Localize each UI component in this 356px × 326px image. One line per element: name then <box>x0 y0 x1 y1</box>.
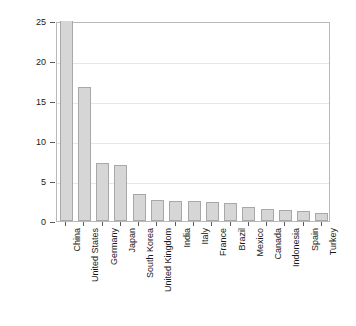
x-axis-category-label: China <box>70 228 84 320</box>
bar <box>188 201 201 221</box>
bar <box>279 210 292 221</box>
x-axis-category-label: Indonesia <box>289 228 303 320</box>
bar <box>60 21 73 221</box>
x-axis-category-label: Brazil <box>235 228 249 320</box>
x-axis-tick-mark <box>102 222 103 226</box>
x-axis-tick-mark <box>156 222 157 226</box>
bar <box>242 207 255 221</box>
gridline <box>57 143 329 144</box>
bar <box>169 201 182 221</box>
x-axis-tick-mark <box>321 222 322 226</box>
gridline <box>57 63 329 64</box>
x-axis-tick-mark <box>248 222 249 226</box>
x-axis-category-label: France <box>216 228 230 320</box>
bar <box>224 203 237 221</box>
x-axis-category-label: Italy <box>198 228 212 320</box>
bar-chart-figure: Percentage of world total 0510152025 Chi… <box>0 0 356 326</box>
bar <box>315 213 328 221</box>
bar <box>206 202 219 221</box>
bar <box>151 200 164 221</box>
x-axis-category-label: India <box>180 228 194 320</box>
y-axis-tick-label: 10 <box>6 138 46 147</box>
y-axis-tick-mark <box>50 222 55 223</box>
x-axis-category-label: Spain <box>308 228 322 320</box>
y-axis-tick-label: 25 <box>6 18 46 27</box>
x-axis-tick-mark <box>211 222 212 226</box>
y-axis-tick-label: 20 <box>6 58 46 67</box>
y-axis-tick-mark <box>50 22 55 23</box>
x-axis-tick-mark <box>175 222 176 226</box>
x-axis-category-label: Turkey <box>326 228 340 320</box>
y-axis-tick-label: 0 <box>6 218 46 227</box>
y-axis-tick-label: 15 <box>6 98 46 107</box>
y-axis-tick-mark <box>50 142 55 143</box>
x-axis-category-label: United Kingdom <box>161 228 175 320</box>
x-axis-category-label: Germany <box>107 228 121 320</box>
plot-area <box>56 22 330 222</box>
x-axis-tick-mark <box>230 222 231 226</box>
x-axis-tick-mark <box>83 222 84 226</box>
y-axis-tick-mark <box>50 62 55 63</box>
x-axis-tick-mark <box>266 222 267 226</box>
x-axis-tick-mark <box>120 222 121 226</box>
x-axis-tick-mark <box>284 222 285 226</box>
bar <box>261 209 274 221</box>
bar <box>133 194 146 221</box>
y-axis-tick-mark <box>50 102 55 103</box>
gridline <box>57 103 329 104</box>
x-axis-category-label: Mexico <box>253 228 267 320</box>
y-axis-tick-mark <box>50 182 55 183</box>
bar <box>78 87 91 221</box>
x-axis-tick-mark <box>303 222 304 226</box>
x-axis-tick-mark <box>193 222 194 226</box>
x-axis-category-label: South Korea <box>143 228 157 320</box>
bar <box>297 211 310 221</box>
x-axis-category-label: Canada <box>271 228 285 320</box>
bar <box>96 163 109 221</box>
x-axis-tick-mark <box>138 222 139 226</box>
x-axis-category-label: Japan <box>125 228 139 320</box>
x-axis-tick-mark <box>65 222 66 226</box>
bar <box>114 165 127 221</box>
x-axis-category-label: United States <box>88 228 102 320</box>
y-axis-tick-label: 5 <box>6 178 46 187</box>
